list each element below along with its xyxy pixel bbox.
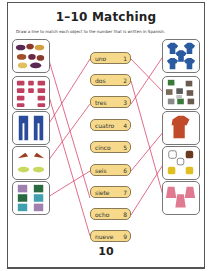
pants-icon (13, 112, 49, 144)
page-number: 10 (8, 245, 204, 258)
word-box-6[interactable]: seis6 (90, 164, 131, 176)
shorts-icon (13, 182, 49, 214)
picture-pants[interactable] (12, 111, 50, 145)
worksheet-title: 1–10 Matching (8, 10, 204, 24)
picture-shoes[interactable] (12, 146, 50, 180)
word-box-1[interactable]: uno1 (90, 52, 131, 64)
picture-shorts[interactable] (12, 181, 50, 215)
word-box-4[interactable]: cuatro4 (90, 119, 131, 131)
jacket-icon (163, 112, 199, 144)
worksheet-page: 1–10 Matching Draw a line to match each … (7, 2, 205, 269)
picture-jacket[interactable] (162, 111, 200, 145)
picture-gloves[interactable] (162, 146, 200, 180)
shoes-icon (13, 147, 49, 179)
dresses-icon (163, 182, 199, 214)
word-box-5[interactable]: cinco5 (90, 141, 131, 153)
picture-bows[interactable] (12, 76, 50, 110)
picture-blue-shirts[interactable] (162, 39, 200, 73)
word-box-8[interactable]: ocho8 (90, 208, 131, 220)
word-box-3[interactable]: tres3 (90, 96, 131, 108)
picture-dresses[interactable] (162, 181, 200, 215)
gloves-icon (163, 147, 199, 179)
blue-shirts-icon (163, 40, 199, 72)
worksheet-instructions: Draw a line to match each object to the … (16, 29, 165, 34)
bows-icon (13, 77, 49, 109)
picture-hats[interactable] (12, 39, 50, 73)
picture-t-shirts[interactable] (162, 76, 200, 110)
word-box-2[interactable]: dos2 (90, 74, 131, 86)
word-box-7[interactable]: siete7 (90, 186, 131, 198)
hats-icon (13, 40, 49, 72)
word-box-9[interactable]: nueve9 (90, 230, 131, 242)
t-shirts-icon (163, 77, 199, 109)
